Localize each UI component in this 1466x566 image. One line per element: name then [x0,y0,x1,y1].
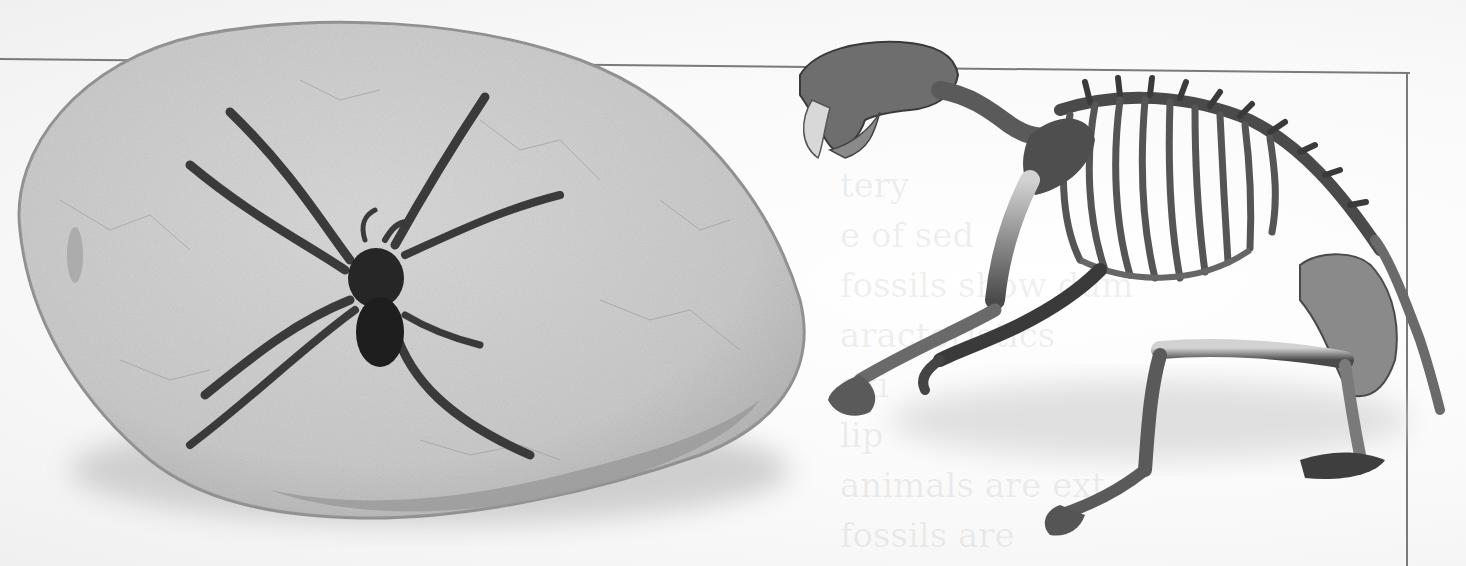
front-humerus [995,180,1030,300]
sabertooth-skeleton-figure [0,0,1466,566]
rear-foot-front [1060,470,1145,515]
scanned-page: tery e of sed fossils show dum aracteris… [0,0,1466,566]
femur [1160,348,1345,360]
front-leg-right [940,270,1100,360]
skeleton [800,42,1440,536]
rear-paw-far [1300,453,1385,480]
